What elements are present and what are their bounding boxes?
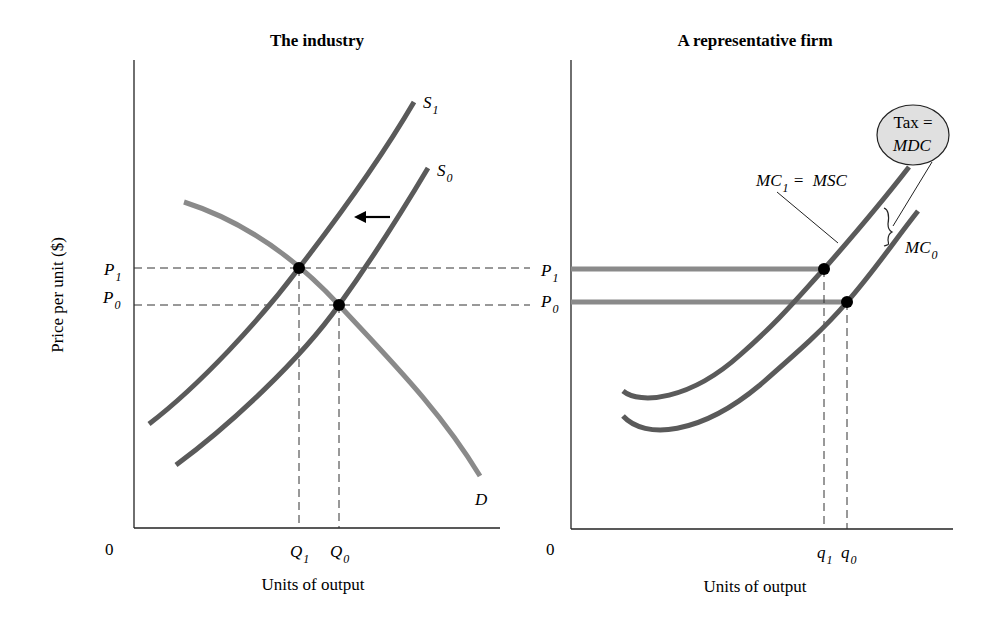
tax-bubble-line1: Tax = xyxy=(893,113,932,132)
industry-x-label: Units of output xyxy=(262,575,365,594)
mc1-leader-line xyxy=(777,192,838,243)
demand-curve xyxy=(184,202,480,476)
left-arrow-icon xyxy=(354,211,366,223)
label-q1-firm: q1 xyxy=(817,543,833,567)
label-d: D xyxy=(474,490,488,509)
label-s0: S0 xyxy=(437,161,453,185)
firm-title: A representative firm xyxy=(677,31,832,50)
firm-origin: 0 xyxy=(546,540,555,559)
tax-brace xyxy=(884,208,892,246)
label-s1: S1 xyxy=(423,93,439,117)
label-p0: P0 xyxy=(102,288,120,312)
industry-origin: 0 xyxy=(105,540,114,559)
tax-bubble-line2: MDC xyxy=(892,136,931,155)
label-q0-firm: q0 xyxy=(841,543,857,567)
label-firm-p0: P0 xyxy=(540,292,558,316)
firm-point-1 xyxy=(818,263,830,275)
diagram-canvas: The industry S1 S0 D P1 P0 0 Q1 Q0 Units… xyxy=(0,0,999,617)
firm-panel: A representative firm Tax = MDC MC1 = MS… xyxy=(540,31,953,596)
label-mc0: MC0 xyxy=(904,238,938,262)
label-q1: Q1 xyxy=(290,542,309,566)
label-mc1-msc: MC1 = MSC xyxy=(755,171,847,195)
industry-panel: The industry S1 S0 D P1 P0 0 Q1 Q0 Units… xyxy=(48,31,530,594)
equilibrium-point-0 xyxy=(333,299,345,311)
industry-title: The industry xyxy=(270,31,364,50)
label-p1: P1 xyxy=(103,260,121,284)
firm-point-0 xyxy=(841,296,853,308)
y-axis-label: Price per unit ($) xyxy=(48,237,67,353)
firm-x-label: Units of output xyxy=(704,577,807,596)
label-q0: Q0 xyxy=(330,542,349,566)
equilibrium-point-1 xyxy=(293,262,305,274)
label-firm-p1: P1 xyxy=(540,261,558,285)
